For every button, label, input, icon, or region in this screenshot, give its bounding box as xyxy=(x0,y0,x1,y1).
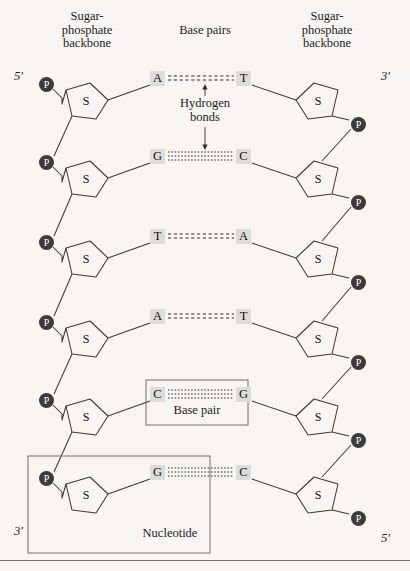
phosphate-next-sugar-link-right xyxy=(322,129,351,161)
phosphate-circle-right: P xyxy=(351,433,366,448)
sugar-label-left: S xyxy=(79,332,93,347)
phosphate-next-sugar-link-right xyxy=(322,287,351,321)
sugar-next-phosphate-link-left xyxy=(54,354,72,394)
sugar-label-left: S xyxy=(79,488,93,503)
base-label-right-T: T xyxy=(236,71,251,86)
phosphate-sugar-link-left xyxy=(53,247,66,262)
phosphate-circle-right: P xyxy=(351,275,366,290)
sugar-label-left: S xyxy=(79,410,93,425)
header-right-backbone-label: Sugar- phosphate backbone xyxy=(268,10,386,51)
sugar-label-right: S xyxy=(311,94,325,109)
phosphate-circle-left: P xyxy=(39,77,54,92)
sugar-base-link-left xyxy=(108,401,150,416)
phosphate-sugar-link-left xyxy=(53,405,66,420)
dna-diagram-figure: Sugar- phosphate backbone Base pairs Sug… xyxy=(0,0,410,571)
base-label-left-T: T xyxy=(150,229,165,244)
phosphate-circle-left: P xyxy=(39,155,54,170)
base-label-right-C: C xyxy=(236,465,251,480)
sugar-label-left: S xyxy=(79,94,93,109)
phosphate-sugar-link-left xyxy=(53,89,66,104)
phosphate-next-sugar-link-right xyxy=(322,445,351,477)
sugar-next-phosphate-link-left xyxy=(54,274,72,316)
header-base-pairs-label: Base pairs xyxy=(140,24,270,38)
sugar-base-link-left xyxy=(108,163,150,178)
sugar-label-left: S xyxy=(79,172,93,187)
phosphate-circle-right: P xyxy=(351,511,366,526)
sugar-base-link-left xyxy=(108,323,150,338)
sugar-base-link-left xyxy=(108,243,150,258)
header-left-backbone-label: Sugar- phosphate backbone xyxy=(28,10,146,51)
sugar-phosphate-link-right xyxy=(332,432,349,436)
end-label-5prime-top-left: 5′ xyxy=(14,69,23,84)
hydrogen-bonds-annotation: Hydrogen bonds xyxy=(140,97,270,125)
base-label-right-C: C xyxy=(236,149,251,164)
sugar-phosphate-link-right xyxy=(332,194,349,198)
sugar-label-right: S xyxy=(311,252,325,267)
base-label-right-T: T xyxy=(236,309,251,324)
hb-arrow-down-head xyxy=(202,145,207,150)
sugar-next-phosphate-link-left xyxy=(54,116,72,156)
sugar-label-right: S xyxy=(311,172,325,187)
phosphate-next-sugar-link-right xyxy=(322,367,351,399)
phosphate-next-sugar-link-right xyxy=(322,207,351,241)
phosphate-sugar-link-left xyxy=(53,483,66,498)
phosphate-circle-left: P xyxy=(39,235,54,250)
base-sugar-link-right xyxy=(252,243,296,258)
phosphate-sugar-link-left xyxy=(53,327,66,342)
sugar-phosphate-link-right xyxy=(332,510,349,514)
phosphate-circle-right: P xyxy=(351,117,366,132)
end-label-3prime-bottom-left: 3′ xyxy=(14,524,23,539)
base-label-right-A: A xyxy=(236,229,251,244)
sugar-label-right: S xyxy=(311,332,325,347)
base-label-right-G: G xyxy=(236,387,251,402)
base-pair-callout-label: Base pair xyxy=(146,403,248,418)
sugar-phosphate-link-right xyxy=(332,274,349,278)
sugar-next-phosphate-link-left xyxy=(54,194,72,236)
base-label-left-G: G xyxy=(150,149,165,164)
nucleotide-callout-label: Nucleotide xyxy=(120,526,220,541)
phosphate-circle-right: P xyxy=(351,355,366,370)
phosphate-circle-left: P xyxy=(39,315,54,330)
end-label-3prime-top-right: 3′ xyxy=(381,69,390,84)
phosphate-circle-left: P xyxy=(39,393,54,408)
sugar-phosphate-link-right xyxy=(332,354,349,358)
base-label-left-A: A xyxy=(150,71,165,86)
bottom-divider-rule xyxy=(0,560,410,561)
end-label-5prime-bottom-right: 5′ xyxy=(381,531,390,546)
base-label-left-C: C xyxy=(150,387,165,402)
phosphate-sugar-link-left xyxy=(53,167,66,182)
base-sugar-link-right xyxy=(252,479,296,494)
left-sugar-phosphate-backbone xyxy=(53,83,150,513)
sugar-label-left: S xyxy=(79,252,93,267)
base-label-left-A: A xyxy=(150,309,165,324)
base-sugar-link-right xyxy=(252,163,296,178)
base-label-left-G: G xyxy=(150,465,165,480)
hb-arrow-up-head xyxy=(202,84,207,89)
base-sugar-link-right xyxy=(252,401,296,416)
right-sugar-phosphate-backbone xyxy=(252,83,351,514)
sugar-base-link-left xyxy=(108,479,150,494)
phosphate-circle-right: P xyxy=(351,195,366,210)
phosphate-circle-left: P xyxy=(39,471,54,486)
base-sugar-link-right xyxy=(252,323,296,338)
sugar-label-right: S xyxy=(311,410,325,425)
sugar-label-right: S xyxy=(311,488,325,503)
dna-structure-svg xyxy=(0,0,410,571)
sugar-phosphate-link-right xyxy=(332,116,349,120)
sugar-next-phosphate-link-left xyxy=(54,432,72,472)
